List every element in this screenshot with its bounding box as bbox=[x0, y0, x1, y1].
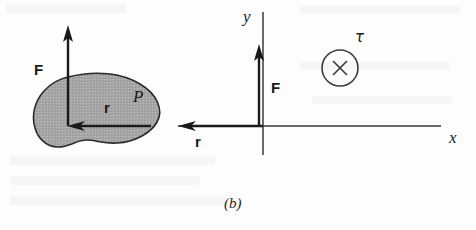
rigid-body-blob bbox=[33, 73, 159, 147]
torque-label: τ bbox=[355, 30, 364, 45]
torque-into-page-icon bbox=[322, 50, 358, 86]
y-axis-label: y bbox=[243, 8, 251, 25]
figure-page: F r P y x F r τ (b) bbox=[0, 0, 476, 230]
force-label-left: F bbox=[34, 62, 43, 77]
x-axis-label: x bbox=[449, 129, 457, 146]
position-label-right: r bbox=[195, 134, 201, 149]
figure-caption: (b) bbox=[224, 195, 242, 212]
position-label-left: r bbox=[104, 100, 110, 115]
position-vector-right bbox=[178, 121, 263, 131]
pivot-point-label: P bbox=[133, 88, 143, 105]
force-label-right: F bbox=[271, 80, 280, 95]
